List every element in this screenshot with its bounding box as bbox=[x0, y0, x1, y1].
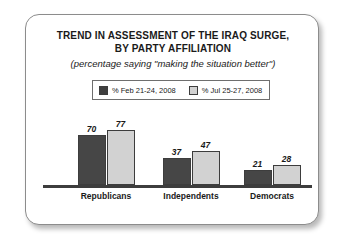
chart-title-line-2: BY PARTY AFFILIATION bbox=[26, 42, 320, 55]
bar-group-democrats: 2128 bbox=[244, 154, 301, 185]
chart-frame: TREND IN ASSESSMENT OF THE IRAQ SURGE, B… bbox=[25, 14, 319, 225]
legend-item-series-1: % Feb 21-24, 2008 bbox=[99, 86, 176, 95]
chart-figure: TREND IN ASSESSMENT OF THE IRAQ SURGE, B… bbox=[0, 0, 345, 247]
bar-rect bbox=[273, 165, 301, 185]
chart-plot-area: 707737472128 bbox=[43, 111, 312, 185]
category-label-republicans: Republicans bbox=[81, 191, 132, 201]
bar-independents-series-1: 37 bbox=[163, 147, 191, 185]
bar-group-republicans: 7077 bbox=[78, 119, 135, 185]
legend-swatch-icon-series-2 bbox=[189, 86, 198, 95]
category-label-independents: Independents bbox=[163, 191, 218, 201]
bar-republicans-series-1: 70 bbox=[78, 124, 106, 185]
category-label-democrats: Democrats bbox=[250, 191, 294, 201]
bar-value-label: 21 bbox=[253, 159, 262, 169]
bar-value-label: 70 bbox=[87, 124, 96, 134]
legend-label-series-1: % Feb 21-24, 2008 bbox=[112, 86, 176, 95]
bar-democrats-series-1: 21 bbox=[244, 159, 272, 185]
bar-rect bbox=[78, 135, 106, 185]
bar-rect bbox=[244, 170, 272, 185]
bar-value-label: 37 bbox=[172, 147, 181, 157]
bar-rect bbox=[192, 151, 220, 185]
bar-value-label: 28 bbox=[282, 154, 291, 164]
chart-title-line-1: TREND IN ASSESSMENT OF THE IRAQ SURGE, bbox=[26, 29, 320, 42]
bar-group-independents: 3747 bbox=[163, 140, 220, 185]
bar-rect bbox=[163, 158, 191, 185]
chart-legend: % Feb 21-24, 2008 % Jul 25-27, 2008 bbox=[92, 80, 270, 100]
bar-rect bbox=[107, 130, 135, 185]
chart-title-block: TREND IN ASSESSMENT OF THE IRAQ SURGE, B… bbox=[26, 29, 320, 70]
bar-republicans-series-2: 77 bbox=[107, 119, 135, 185]
chart-x-axis-line bbox=[43, 185, 312, 188]
bar-value-label: 77 bbox=[116, 119, 125, 129]
legend-item-series-2: % Jul 25-27, 2008 bbox=[189, 86, 262, 95]
chart-category-labels: RepublicansIndependentsDemocrats bbox=[43, 191, 312, 207]
bar-value-label: 47 bbox=[201, 140, 210, 150]
bar-democrats-series-2: 28 bbox=[273, 154, 301, 185]
chart-subtitle: (percentage saying "making the situation… bbox=[26, 58, 320, 70]
bar-independents-series-2: 47 bbox=[192, 140, 220, 185]
legend-swatch-icon-series-1 bbox=[99, 86, 108, 95]
legend-label-series-2: % Jul 25-27, 2008 bbox=[202, 86, 262, 95]
